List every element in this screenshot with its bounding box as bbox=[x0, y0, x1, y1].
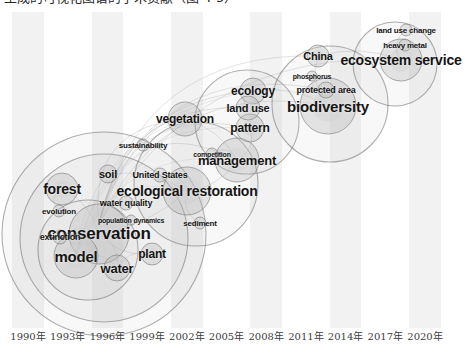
node-label[interactable]: population dynamics bbox=[98, 217, 164, 224]
figure-caption: 生成的可视化图谱的学术贡献（图 4-5） bbox=[0, 0, 469, 12]
node-label[interactable]: protected area bbox=[296, 85, 355, 95]
x-tick-label: 1990年 bbox=[10, 328, 45, 343]
x-tick-label: 2020年 bbox=[407, 328, 442, 343]
node-label[interactable]: forest bbox=[43, 181, 81, 197]
node-label[interactable]: plant bbox=[138, 247, 166, 261]
node-label[interactable]: pattern bbox=[230, 121, 269, 135]
node-label[interactable]: United States bbox=[133, 170, 188, 180]
figure-caption-text: 生成的可视化图谱的学术贡献（图 4-5） bbox=[4, 0, 237, 4]
node-label[interactable]: extinction bbox=[40, 232, 81, 242]
x-axis: 1990年1993年1996年1999年2002年2005年2008年2011年… bbox=[0, 328, 469, 358]
bubble-timeline-chart: conservationmodelforestwaterplantextinct… bbox=[0, 12, 469, 328]
node-label[interactable]: sediment bbox=[183, 219, 217, 228]
node-label[interactable]: sustainability bbox=[119, 141, 167, 150]
node-label[interactable]: biodiversity bbox=[287, 98, 369, 115]
node-label[interactable]: ecology bbox=[231, 84, 275, 98]
node-label[interactable]: ecosystem service bbox=[340, 52, 461, 68]
node-label[interactable]: land use bbox=[226, 102, 269, 114]
x-tick-label: 2017年 bbox=[368, 328, 403, 343]
node-label[interactable]: heavy metal bbox=[383, 41, 427, 50]
x-tick-label: 1996年 bbox=[90, 328, 125, 343]
x-tick-label: 2005年 bbox=[209, 328, 244, 343]
node-label[interactable]: model bbox=[54, 248, 97, 265]
x-tick-label: 1999年 bbox=[129, 328, 164, 343]
node-label[interactable]: phosphorus bbox=[293, 73, 331, 80]
x-tick-label: 2008年 bbox=[248, 328, 283, 343]
x-tick-label: 2011年 bbox=[288, 328, 323, 343]
node-label[interactable]: evolution bbox=[42, 207, 76, 216]
node-label[interactable]: vegetation bbox=[156, 112, 214, 126]
x-tick-label: 2014年 bbox=[328, 328, 363, 343]
x-tick-label: 2002年 bbox=[169, 328, 204, 343]
node-label[interactable]: land use change bbox=[376, 26, 436, 35]
node-label[interactable]: management bbox=[198, 153, 276, 168]
node-label[interactable]: soil bbox=[99, 168, 117, 180]
node-label[interactable]: water bbox=[101, 261, 134, 276]
node-label[interactable]: China bbox=[303, 50, 333, 62]
x-tick-label: 1993年 bbox=[50, 328, 85, 343]
node-label[interactable]: water quality bbox=[100, 198, 152, 208]
node-label[interactable]: ecological restoration bbox=[116, 183, 257, 199]
